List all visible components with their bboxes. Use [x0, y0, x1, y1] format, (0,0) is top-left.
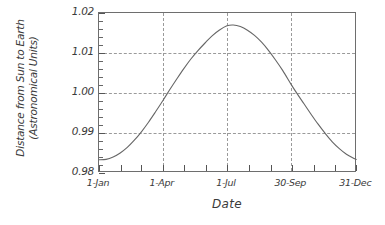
x-tick-label: 30-Sep	[274, 177, 306, 188]
x-tick-label: 1-Jul	[216, 177, 235, 188]
plot-area	[98, 12, 356, 172]
y-axis-title-line1: Distance from Sun to Earth	[14, 19, 27, 156]
y-axis-title-line2: (Astronomical Units)	[27, 36, 40, 139]
y-tick-label: 1.00	[60, 85, 94, 97]
y-axis-title: Distance from Sun to Earth (Astronomical…	[0, 0, 52, 190]
y-tick-label: 0.99	[60, 125, 94, 137]
y-tick-label: 1.01	[60, 45, 94, 57]
y-axis-major-tick	[99, 173, 105, 174]
chart-figure: Distance from Sun to Earth (Astronomical…	[0, 0, 385, 225]
x-tick-label: 31-Dec	[339, 177, 371, 188]
data-line-series	[99, 13, 357, 173]
y-tick-label: 0.98	[60, 165, 94, 177]
x-axis-tick-labels: 1-Jan1-Apr1-Jul30-Sep31-Dec	[98, 177, 356, 193]
y-tick-label: 1.02	[60, 5, 94, 17]
y-axis-tick-labels: 0.980.991.001.011.02	[58, 0, 94, 190]
x-tick-label: 1-Apr	[149, 177, 173, 188]
x-axis-title: Date	[98, 197, 356, 211]
x-tick-label: 1-Jan	[87, 177, 110, 188]
